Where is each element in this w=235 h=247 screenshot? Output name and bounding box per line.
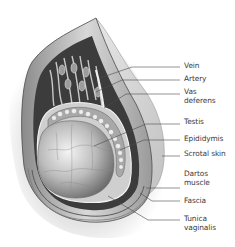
- label-testis: Testis: [184, 118, 204, 127]
- label-fascia: Fascia: [184, 197, 206, 206]
- label-epididymis: Epididymis: [184, 135, 223, 144]
- label-artery: Artery: [184, 75, 206, 84]
- label-scrotal-skin: Scrotal skin: [184, 150, 226, 159]
- label-vein: Vein: [184, 62, 199, 71]
- label-dartos-muscle: Dartos muscle: [184, 170, 210, 187]
- testis: [38, 121, 114, 198]
- label-vas-deferens: Vas deferens: [184, 88, 216, 105]
- label-tunica-vaginalis: Tunica vaginalis: [184, 215, 216, 232]
- scrotum-cross-section-diagram: Vein Artery Vas deferens Testis Epididym…: [0, 0, 235, 247]
